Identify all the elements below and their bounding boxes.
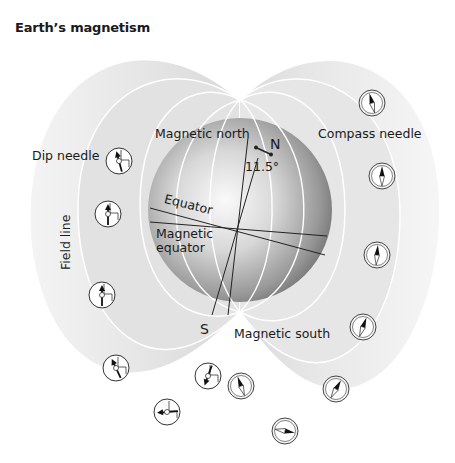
label-dip-needle: Dip needle (32, 150, 99, 163)
label-magnetic-south: Magnetic south (234, 328, 330, 341)
label-geographic-south: S (200, 322, 209, 336)
dip-needle-icon (195, 363, 221, 389)
dip-needle-icon (89, 282, 115, 308)
label-angle: 11.5° (245, 161, 279, 174)
label-geographic-north: N (270, 137, 280, 151)
compass-needle-icon (359, 90, 385, 116)
dip-needle-icon (106, 148, 132, 174)
compass-needle-icon (369, 163, 395, 189)
label-field-line: Field line (60, 215, 73, 270)
compass-needle-icon (350, 314, 376, 340)
dip-needle-icon (95, 201, 121, 227)
earth-magnetism-diagram: Earth’s magnetism Magnetic north N 11.5°… (0, 0, 455, 463)
label-magnetic-equator-2: equator (156, 242, 205, 255)
dip-needle-icon (103, 355, 129, 381)
label-compass-needle: Compass needle (318, 128, 422, 141)
label-magnetic-north: Magnetic north (155, 128, 250, 141)
label-magnetic-equator-1: Magnetic (156, 228, 213, 241)
dip-needle-icon (154, 399, 180, 425)
compass-needle-icon (228, 373, 254, 399)
compass-needle-icon (364, 242, 390, 268)
diagram-title: Earth’s magnetism (15, 20, 150, 35)
compass-needle-icon (323, 376, 349, 402)
compass-needle-icon (272, 418, 298, 444)
